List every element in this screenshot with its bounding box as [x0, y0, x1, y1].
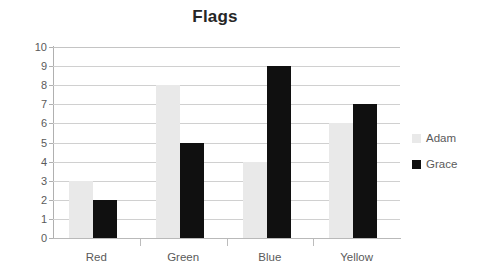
y-axis-tick	[49, 66, 53, 67]
legend-swatch-icon	[412, 160, 421, 169]
bar-grace-red[interactable]	[93, 200, 117, 238]
y-axis-label: 1	[5, 214, 47, 225]
bar-groups	[53, 47, 400, 238]
y-axis-tick	[49, 162, 53, 163]
x-axis-label-red: Red	[53, 250, 140, 264]
chart-legend: AdamGrace	[412, 132, 490, 184]
legend-label: Adam	[426, 132, 456, 145]
bar-group	[140, 47, 227, 238]
legend-swatch-icon	[412, 134, 421, 143]
y-axis-tick	[49, 47, 53, 48]
bar-grace-green[interactable]	[180, 143, 204, 239]
x-axis-label-blue: Blue	[227, 250, 314, 264]
legend-item-grace[interactable]: Grace	[412, 158, 490, 171]
y-axis-label: 4	[5, 157, 47, 168]
y-axis-tick	[49, 238, 53, 239]
y-axis-tick	[49, 143, 53, 144]
x-axis-tick	[227, 239, 228, 246]
chart-title: Flags	[0, 6, 430, 28]
bar-adam-red[interactable]	[69, 181, 93, 238]
x-axis-tick	[140, 239, 141, 246]
x-axis-label-green: Green	[140, 250, 227, 264]
bar-group	[313, 47, 400, 238]
y-axis-tick-labels: 109876543210	[0, 47, 47, 238]
y-axis-tick	[49, 200, 53, 201]
y-axis-label: 9	[5, 61, 47, 72]
y-axis-tick	[49, 123, 53, 124]
y-axis-tick	[49, 104, 53, 105]
y-axis-label: 7	[5, 99, 47, 110]
bar-adam-green[interactable]	[156, 85, 180, 238]
y-axis-tick	[49, 219, 53, 220]
bar-group	[227, 47, 314, 238]
bar-group	[53, 47, 140, 238]
y-axis-label: 8	[5, 80, 47, 91]
x-axis-tick	[313, 239, 314, 246]
y-axis-tick	[49, 181, 53, 182]
x-axis-label-yellow: Yellow	[313, 250, 400, 264]
plot-area	[53, 47, 400, 238]
bar-adam-yellow[interactable]	[329, 123, 353, 238]
y-axis-tick	[49, 85, 53, 86]
y-axis-label: 0	[5, 233, 47, 244]
bar-grace-blue[interactable]	[267, 66, 291, 238]
y-axis-label: 10	[5, 42, 47, 53]
bar-chart: Flags 109876543210 RedGreenBlueYellow Ad…	[0, 0, 490, 277]
bar-grace-yellow[interactable]	[353, 104, 377, 238]
legend-label: Grace	[426, 158, 457, 171]
y-axis-label: 3	[5, 176, 47, 187]
bar-adam-blue[interactable]	[243, 162, 267, 238]
y-axis-label: 2	[5, 195, 47, 206]
y-axis-label: 5	[5, 138, 47, 149]
legend-item-adam[interactable]: Adam	[412, 132, 490, 145]
y-axis-label: 6	[5, 118, 47, 129]
